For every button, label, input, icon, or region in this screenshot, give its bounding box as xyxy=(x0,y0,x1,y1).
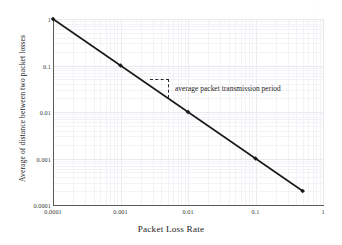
gridline-horizontal xyxy=(53,163,323,164)
annotation-bracket-horizontal xyxy=(150,79,169,80)
gridline-horizontal xyxy=(53,33,323,34)
x-tick-label: 0.1 xyxy=(251,208,259,215)
y-axis-line xyxy=(53,19,54,206)
annotation-bracket-vertical xyxy=(168,79,169,98)
annotation-label: average packet transmission period xyxy=(175,84,281,93)
gridline-horizontal xyxy=(53,172,323,173)
y-tick-label: 1 xyxy=(48,16,51,23)
gridline-horizontal xyxy=(53,70,323,71)
gridline-horizontal xyxy=(53,126,323,127)
gridline-horizontal xyxy=(53,38,323,39)
gridline-horizontal xyxy=(53,19,323,20)
gridline-vertical xyxy=(323,19,324,205)
gridline-horizontal xyxy=(53,24,323,25)
page-artifact: 1 xyxy=(313,5,316,11)
gridline-horizontal xyxy=(53,183,323,184)
gridline-horizontal xyxy=(53,73,323,74)
gridline-horizontal xyxy=(53,29,323,30)
x-tick-label: 0.0001 xyxy=(44,208,62,215)
gridline-horizontal xyxy=(53,177,323,178)
gridline-horizontal xyxy=(53,112,323,113)
gridline-horizontal xyxy=(53,161,323,162)
gridline-horizontal xyxy=(53,145,323,146)
plot-area xyxy=(53,19,323,205)
y-axis-title: Average of distance between two packet l… xyxy=(18,9,27,209)
gridline-horizontal xyxy=(53,114,323,115)
x-tick-label: 1 xyxy=(321,208,324,215)
y-tick-label: 0.1 xyxy=(43,62,51,69)
gridline-horizontal xyxy=(53,136,323,137)
gridline-horizontal xyxy=(53,166,323,167)
gridline-horizontal xyxy=(53,122,323,123)
gridline-horizontal xyxy=(53,98,323,99)
gridline-horizontal xyxy=(53,169,323,170)
x-tick-label: 0.001 xyxy=(113,208,127,215)
x-axis-title: Packet Loss Rate xyxy=(0,224,342,234)
gridline-horizontal xyxy=(53,117,323,118)
gridline-horizontal xyxy=(53,191,323,192)
chart-figure: 0.00010.0010.010.110.00010.0010.010.11 a… xyxy=(0,0,342,245)
gridline-horizontal xyxy=(53,159,323,160)
gridline-horizontal xyxy=(53,119,323,120)
gridline-horizontal xyxy=(53,43,323,44)
x-axis-line xyxy=(53,205,324,206)
gridline-horizontal xyxy=(53,79,323,80)
gridline-horizontal xyxy=(53,21,323,22)
gridline-horizontal xyxy=(53,26,323,27)
gridline-horizontal xyxy=(53,52,323,53)
y-tick-label: 0.001 xyxy=(37,155,51,162)
gridline-horizontal xyxy=(53,66,323,67)
gridline-horizontal xyxy=(53,76,323,77)
x-tick-label: 0.01 xyxy=(182,208,193,215)
y-tick-label: 0.01 xyxy=(40,109,51,116)
gridline-horizontal xyxy=(53,68,323,69)
y-tick-label: 0.0001 xyxy=(33,202,51,209)
gridline-horizontal xyxy=(53,131,323,132)
